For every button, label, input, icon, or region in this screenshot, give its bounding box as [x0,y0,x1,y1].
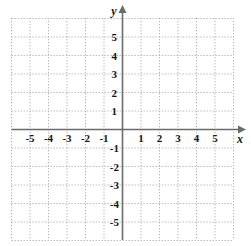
y-tick-label: 1 [112,105,118,117]
y-tick-label: 5 [112,31,118,43]
x-tick-label: -5 [25,132,35,144]
y-tick-label: -1 [110,142,119,154]
x-tick-label: 5 [212,132,218,144]
y-tick-label: -2 [110,161,120,173]
x-tick-label: 1 [138,132,144,144]
x-tick-label: -2 [81,132,91,144]
y-tick-label: 4 [112,50,118,62]
x-tick-label: 4 [194,132,200,144]
x-tick-label: -3 [62,132,72,144]
y-tick-label: 2 [112,87,118,99]
y-tick-label: -4 [110,198,120,210]
y-tick-label: -3 [110,179,120,191]
y-tick-label: -5 [110,216,120,228]
coordinate-plane: -5 -4 -3 -2 -1 1 2 3 4 5 5 4 3 2 1 -1 -2… [0,0,251,246]
x-tick-label: 2 [157,132,163,144]
y-axis-name: y [109,4,117,18]
x-tick-label: 3 [175,132,181,144]
x-tick-label: -4 [44,132,54,144]
y-tick-label: 3 [112,68,118,80]
x-tick-label: -1 [99,132,108,144]
x-axis-name: x [236,132,243,146]
